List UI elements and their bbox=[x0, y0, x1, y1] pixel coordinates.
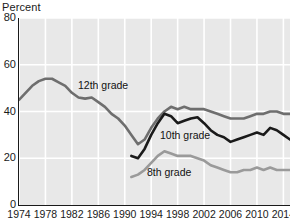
x-axis-line bbox=[18, 205, 290, 206]
x-tick-label: 2006 bbox=[219, 208, 242, 220]
x-tick-label: 2010 bbox=[245, 208, 268, 220]
x-tick-label: 1994 bbox=[140, 208, 163, 220]
y-tick-label: 20 bbox=[4, 152, 16, 163]
line-chart: Percent 806040200 1974197819821986199019… bbox=[0, 0, 290, 223]
x-tick-label: 1990 bbox=[113, 208, 136, 220]
x-tick-label: 1974 bbox=[7, 208, 30, 220]
x-tick-label: 1978 bbox=[34, 208, 57, 220]
y-tick-label: 60 bbox=[4, 59, 16, 70]
x-tick-label: 1982 bbox=[60, 208, 83, 220]
x-tick-label: 1998 bbox=[166, 208, 189, 220]
x-tick-label: 2014 bbox=[272, 208, 290, 220]
series-label-grade8: 8th grade bbox=[147, 166, 191, 178]
x-axis-ticks: 1974197819821986199019941998200220062010… bbox=[0, 208, 290, 223]
y-axis-line bbox=[18, 18, 19, 206]
series-label-grade12: 12th grade bbox=[78, 79, 128, 91]
x-tick-label: 1986 bbox=[87, 208, 110, 220]
series-label-grade10: 10th grade bbox=[160, 129, 210, 141]
y-tick-label: 40 bbox=[4, 106, 16, 117]
y-axis-ticks: 806040200 bbox=[0, 18, 16, 205]
x-tick-label: 2002 bbox=[192, 208, 215, 220]
y-tick-label: 80 bbox=[4, 12, 16, 23]
